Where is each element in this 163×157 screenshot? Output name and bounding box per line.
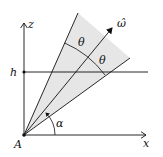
origin-label: A (13, 138, 22, 151)
origin-point (22, 133, 26, 137)
theta-label-left: θ (78, 36, 85, 49)
height-label: h (10, 66, 17, 79)
z-axis-label: z (27, 18, 34, 31)
theta-label-right: θ (99, 54, 106, 67)
cone-diagram: z x h A ω̂ θ θ α (0, 0, 163, 157)
diagram-canvas: z x h A ω̂ θ θ α (0, 0, 163, 157)
alpha-label: α (56, 117, 64, 130)
omega-label: ω̂ (117, 17, 126, 30)
height-point (22, 70, 25, 73)
cone-region (24, 13, 130, 135)
x-axis-label: x (143, 137, 150, 150)
